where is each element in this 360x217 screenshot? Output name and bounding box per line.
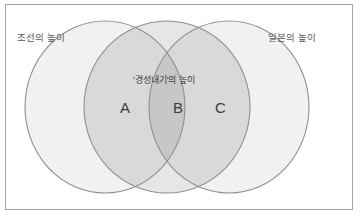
label-left-circle: 조선의 높이 xyxy=(17,33,65,43)
label-center-circle: '경성내기'의 높이 xyxy=(133,76,195,85)
region-letter-b: B xyxy=(173,100,183,115)
region-letter-a: A xyxy=(120,100,130,115)
venn-diagram-figure: 조선의 높이 일본의 높이 '경성내기'의 높이 A B C xyxy=(0,0,360,217)
region-letter-c: C xyxy=(215,100,226,115)
label-right-circle: 일본의 높이 xyxy=(268,33,316,43)
